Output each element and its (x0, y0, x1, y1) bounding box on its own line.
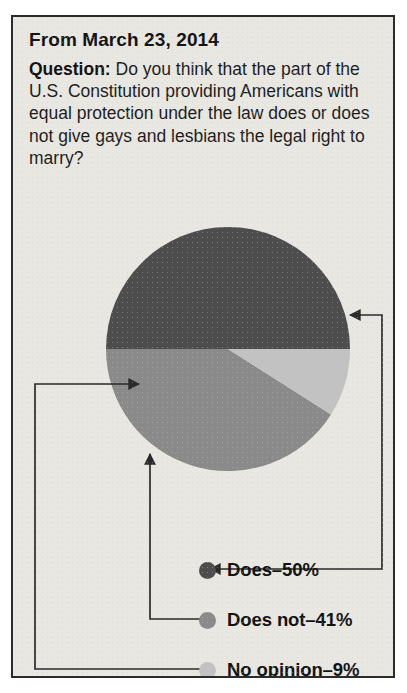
legend-label-does-not: Does not–41% (227, 609, 352, 631)
pie-slice-does (106, 227, 350, 349)
legend-bullet-does (199, 562, 216, 579)
legend-bullet-does-not (199, 612, 216, 629)
legend-bullet-no-opinion (199, 662, 216, 679)
legend-item-does-not[interactable]: Does not–41% (199, 608, 352, 632)
legend-item-does[interactable]: Does–50% (199, 558, 319, 582)
legend-label-no-opinion: No opinion–9% (227, 659, 359, 678)
legend-item-no-opinion[interactable]: No opinion–9% (199, 658, 359, 678)
poll-panel: From March 23, 2014 Question: Do you thi… (11, 15, 395, 678)
legend-label-does: Does–50% (227, 559, 319, 581)
leader-line-does-not (150, 454, 210, 619)
pie-chart: Does–50% Does not–41% No opinion–9% (13, 17, 393, 676)
